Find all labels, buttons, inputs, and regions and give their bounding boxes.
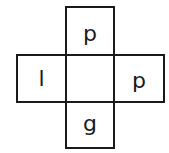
net-cell-left: l: [16, 54, 67, 103]
net-cell-bottom: g: [65, 101, 115, 149]
cell-letter-top: p: [83, 21, 97, 46]
cell-letter-bottom: g: [83, 111, 97, 136]
cell-letter-left: l: [38, 66, 44, 91]
net-cell-right: p: [113, 54, 165, 103]
net-cell-top: p: [65, 6, 115, 56]
net-cell-center: [65, 54, 115, 103]
cell-letter-right: p: [132, 68, 146, 93]
